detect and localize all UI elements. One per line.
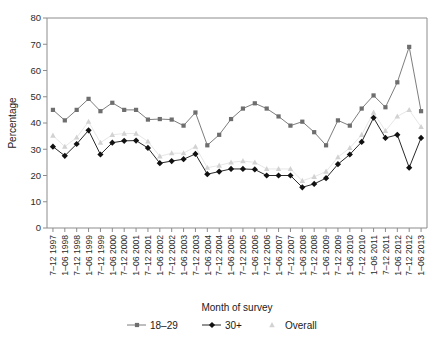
- series-line: [53, 118, 421, 188]
- x-tick-label: 1–06 1999: [84, 235, 94, 276]
- data-point: [145, 138, 151, 143]
- data-point: [407, 45, 411, 49]
- series-overall: [50, 107, 424, 183]
- data-point: [193, 110, 197, 114]
- data-point: [158, 117, 162, 121]
- data-point: [264, 166, 270, 171]
- data-point: [180, 156, 186, 162]
- series-30-: [50, 115, 424, 191]
- x-tick-label: 7–12 2006: [262, 235, 272, 276]
- y-tick-label: 60: [30, 65, 41, 76]
- data-point: [335, 154, 341, 159]
- data-point: [192, 151, 198, 157]
- data-point: [418, 135, 424, 141]
- data-point: [216, 168, 222, 174]
- data-point: [406, 107, 412, 112]
- series-line: [53, 110, 421, 181]
- y-tick-label: 10: [30, 196, 41, 207]
- data-point: [288, 166, 294, 171]
- legend-item-overall[interactable]: Overall: [269, 320, 316, 331]
- data-point: [276, 166, 282, 171]
- legend-label: Overall: [285, 320, 317, 331]
- data-point: [217, 133, 221, 137]
- data-point: [336, 118, 340, 122]
- data-point: [288, 124, 292, 128]
- series-layer: [50, 45, 424, 191]
- legend-label: 18–29: [150, 320, 178, 331]
- x-tick-label: 7–12 2001: [143, 235, 153, 276]
- series-18-29: [51, 45, 423, 148]
- line-chart: 01020304050607080 7–12 19971–06 19987–12…: [0, 0, 435, 340]
- data-point: [265, 106, 269, 110]
- data-point: [98, 109, 102, 113]
- data-point: [98, 140, 104, 145]
- data-point: [406, 165, 412, 171]
- data-point: [122, 108, 126, 112]
- data-point: [395, 80, 399, 84]
- data-point: [110, 101, 114, 105]
- data-point: [419, 109, 423, 113]
- x-tick-label: 7–12 2000: [119, 235, 129, 276]
- x-tick-label: 1–06 2006: [250, 235, 260, 276]
- data-point: [205, 143, 209, 147]
- legend-item-30-[interactable]: 30+: [202, 320, 242, 331]
- triangle-marker-icon: [269, 322, 275, 327]
- data-point: [241, 106, 245, 110]
- x-tick-label: 1–06 2011: [369, 235, 379, 275]
- data-point: [275, 172, 281, 178]
- data-point: [371, 110, 377, 115]
- x-tick-label: 1–06 2009: [321, 235, 331, 276]
- data-point: [240, 158, 246, 163]
- data-point: [134, 108, 138, 112]
- x-tick-label: 1–06 2008: [298, 235, 308, 276]
- data-point: [169, 158, 175, 164]
- y-tick-label: 70: [30, 39, 41, 50]
- chart-legend: 18–2930+Overall: [127, 320, 317, 331]
- x-tick-label: 7–12 2003: [191, 235, 201, 276]
- data-point: [264, 172, 270, 178]
- data-point: [133, 137, 139, 143]
- data-point: [86, 97, 90, 101]
- y-tick-label: 20: [30, 170, 41, 181]
- y-axis: 01020304050607080: [30, 12, 47, 233]
- data-point: [383, 105, 387, 109]
- square-marker-icon: [135, 323, 139, 327]
- data-point: [324, 143, 328, 147]
- legend-label: 30+: [225, 320, 242, 331]
- y-tick-label: 80: [30, 12, 41, 23]
- x-tick-label: 1–06 1998: [60, 235, 70, 276]
- data-point: [395, 113, 401, 118]
- x-tick-label: 7–12 2012: [404, 235, 414, 276]
- y-tick-label: 40: [30, 117, 41, 128]
- x-tick-label: 7–12 2010: [357, 235, 367, 276]
- data-point: [300, 120, 304, 124]
- x-tick-label: 7–12 1999: [96, 235, 106, 276]
- x-tick-label: 1–06 2002: [155, 235, 165, 276]
- y-tick-label: 0: [36, 222, 41, 233]
- x-tick-label: 7–12 2002: [167, 235, 177, 276]
- data-point: [121, 138, 127, 144]
- data-point: [229, 117, 233, 121]
- x-tick-label: 7–12 2008: [309, 235, 319, 276]
- data-point: [169, 150, 175, 155]
- data-point: [253, 101, 257, 105]
- series-line: [53, 47, 421, 145]
- x-axis: 7–12 19971–06 19987–12 19981–06 19997–12…: [47, 18, 427, 276]
- data-point: [359, 132, 365, 137]
- data-point: [86, 119, 92, 124]
- y-tick-label: 30: [30, 144, 41, 155]
- data-point: [204, 171, 210, 177]
- legend-item-18-29[interactable]: 18–29: [127, 320, 178, 331]
- data-point: [146, 117, 150, 121]
- data-point: [75, 108, 79, 112]
- data-point: [51, 108, 55, 112]
- y-tick-label: 50: [30, 91, 41, 102]
- data-point: [360, 106, 364, 110]
- x-tick-label: 7–12 2004: [214, 235, 224, 276]
- x-tick-label: 1–06 2012: [393, 235, 403, 276]
- data-point: [394, 132, 400, 138]
- data-point: [121, 131, 127, 136]
- data-point: [181, 124, 185, 128]
- x-tick-label: 1–06 2004: [203, 235, 213, 276]
- x-tick-label: 7–12 2011: [381, 235, 391, 275]
